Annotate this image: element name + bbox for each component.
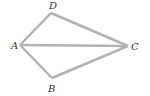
segment-AC xyxy=(20,45,128,46)
label-B: B xyxy=(47,83,55,94)
kite-diagram: A B C D xyxy=(0,0,150,96)
label-C: C xyxy=(131,41,139,52)
label-A: A xyxy=(10,40,18,51)
label-D: D xyxy=(48,0,57,11)
segment-CB xyxy=(52,46,128,78)
segment-AD xyxy=(20,13,51,45)
segment-BA xyxy=(20,45,52,78)
segment-DC xyxy=(51,13,128,46)
